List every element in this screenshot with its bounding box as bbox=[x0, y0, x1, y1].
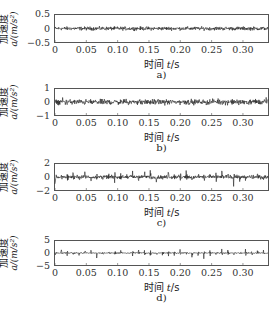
x-tick-label: 0.30 bbox=[228, 268, 258, 278]
x-tick-label: 0.25 bbox=[197, 268, 227, 278]
x-tick-label: 0 bbox=[40, 268, 70, 278]
x-tick-label: 0.15 bbox=[134, 268, 164, 278]
x-tick-label: 0.05 bbox=[71, 268, 101, 278]
x-tick-label: 0.20 bbox=[165, 268, 195, 278]
panel-caption: d) bbox=[54, 292, 269, 303]
x-tick-label: 0.10 bbox=[103, 268, 133, 278]
chart-panel-d: 加速度a/(m/s²)50−500.050.100.150.200.250.30… bbox=[0, 0, 279, 317]
